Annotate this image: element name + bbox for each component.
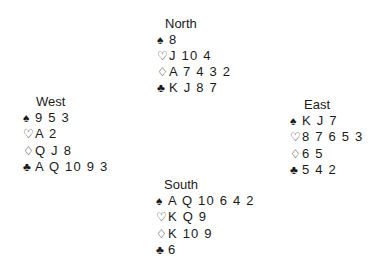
club-icon: ♣	[156, 242, 168, 258]
west-spades: ♠9 5 3	[23, 110, 108, 126]
heart-icon: ♡	[290, 129, 302, 145]
north-diamonds: ♢A 7 4 3 2	[157, 64, 231, 80]
hand-east: East ♠K J 7 ♡8 7 6 5 3 ♢6 5 ♣5 4 2	[290, 97, 363, 178]
north-hearts: ♡J 10 4	[157, 48, 231, 64]
north-spades: ♠8	[157, 32, 231, 48]
south-hearts-cards: K Q 9	[168, 209, 207, 224]
south-clubs: ♣6	[156, 242, 255, 258]
seat-label-east: East	[290, 97, 363, 113]
east-hearts: ♡8 7 6 5 3	[290, 129, 363, 145]
east-spades-cards: K J 7	[302, 113, 338, 128]
diamond-icon: ♢	[23, 143, 35, 159]
diamond-icon: ♢	[157, 64, 169, 80]
west-hearts: ♡A 2	[23, 126, 108, 142]
spade-icon: ♠	[156, 193, 168, 209]
west-clubs: ♣A Q 10 9 3	[23, 159, 108, 175]
seat-label-south: South	[156, 177, 255, 193]
west-clubs-cards: A Q 10 9 3	[35, 159, 108, 174]
east-clubs: ♣5 4 2	[290, 162, 363, 178]
west-diamonds: ♢Q J 8	[23, 143, 108, 159]
north-diamonds-cards: A 7 4 3 2	[169, 64, 231, 79]
north-spades-cards: 8	[169, 32, 177, 47]
seat-label-north: North	[157, 16, 231, 32]
spade-icon: ♠	[290, 113, 302, 129]
north-clubs: ♣K J 8 7	[157, 80, 231, 96]
spade-icon: ♠	[157, 32, 169, 48]
diamond-icon: ♢	[290, 146, 302, 162]
west-hearts-cards: A 2	[35, 126, 57, 141]
club-icon: ♣	[290, 162, 302, 178]
east-clubs-cards: 5 4 2	[302, 162, 337, 177]
heart-icon: ♡	[23, 126, 35, 142]
seat-label-west: West	[23, 94, 108, 110]
diamond-icon: ♢	[156, 226, 168, 242]
hand-north: North ♠8 ♡J 10 4 ♢A 7 4 3 2 ♣K J 8 7	[157, 16, 231, 96]
heart-icon: ♡	[157, 48, 169, 64]
south-diamonds: ♢K 10 9	[156, 226, 255, 242]
hand-west: West ♠9 5 3 ♡A 2 ♢Q J 8 ♣A Q 10 9 3	[23, 94, 108, 175]
north-hearts-cards: J 10 4	[169, 48, 212, 63]
east-spades: ♠K J 7	[290, 113, 363, 129]
west-spades-cards: 9 5 3	[35, 110, 70, 125]
south-hearts: ♡K Q 9	[156, 209, 255, 225]
east-diamonds: ♢6 5	[290, 146, 363, 162]
west-diamonds-cards: Q J 8	[35, 143, 72, 158]
club-icon: ♣	[157, 80, 169, 96]
spade-icon: ♠	[23, 110, 35, 126]
north-clubs-cards: K J 8 7	[169, 80, 218, 95]
south-spades-cards: A Q 10 6 4 2	[168, 193, 255, 208]
east-hearts-cards: 8 7 6 5 3	[302, 129, 363, 144]
south-diamonds-cards: K 10 9	[168, 226, 213, 241]
club-icon: ♣	[23, 159, 35, 175]
south-spades: ♠A Q 10 6 4 2	[156, 193, 255, 209]
heart-icon: ♡	[156, 209, 168, 225]
east-diamonds-cards: 6 5	[302, 146, 324, 161]
hand-south: South ♠A Q 10 6 4 2 ♡K Q 9 ♢K 10 9 ♣6	[156, 177, 255, 258]
south-clubs-cards: 6	[168, 242, 176, 257]
